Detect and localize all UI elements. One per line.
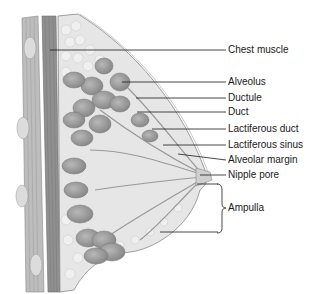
label-ductule: Ductule [228,92,262,104]
label-ampulla: Ampulla [228,202,264,214]
breast-tissue [58,14,208,292]
label-chest-muscle: Chest muscle [228,44,289,56]
label-nipple-pore: Nipple pore [228,169,279,181]
label-lactiferous-duct: Lactiferous duct [228,123,299,135]
label-alveolar-margin: Alveolar margin [228,154,297,166]
outer-muscle-layer [16,16,44,292]
label-duct: Duct [228,106,249,118]
nipple [196,168,212,186]
label-alveolus: Alveolus [228,76,266,88]
chest-muscle-layer [42,16,60,292]
ampulla-bracket [217,184,226,233]
label-lactiferous-sinus: Lactiferous sinus [228,139,303,151]
